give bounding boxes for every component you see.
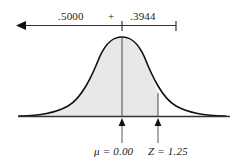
mean-axis-label: μ = 0.00: [94, 146, 133, 157]
distribution-chart-svg: [0, 0, 244, 167]
right-area-label: .3944: [130, 11, 156, 22]
mean-pointer-arrowhead: [119, 118, 126, 126]
bracket-left-arrowhead: [16, 21, 26, 30]
z-axis-label: Z = 1.25: [148, 146, 188, 157]
shaded-area-under-curve: [20, 37, 158, 116]
left-area-label: .5000: [58, 11, 84, 22]
normal-distribution-figure: .5000 + .3944 μ = 0.00 Z = 1.25: [0, 0, 244, 167]
plus-operator-label: +: [108, 11, 114, 22]
z-pointer-arrowhead: [155, 118, 162, 126]
